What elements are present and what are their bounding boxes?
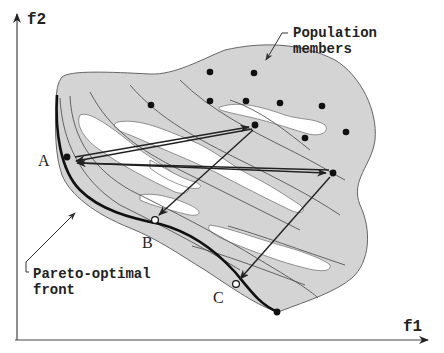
population-label-line2: members <box>293 41 352 57</box>
member-dot-source <box>330 170 337 177</box>
member-dot <box>148 102 155 109</box>
pareto-diagram: Population members Pareto-optimal front … <box>0 0 444 353</box>
member-dot <box>343 129 350 136</box>
member-dot <box>302 135 309 142</box>
point-b-label: B <box>142 234 153 251</box>
front-end-dot <box>274 309 281 316</box>
point-a-dot <box>64 154 71 161</box>
population-label-line1: Population <box>293 25 377 41</box>
point-c-label: C <box>213 289 224 306</box>
pareto-label-line1: Pareto-optimal <box>33 266 151 282</box>
member-dot <box>319 103 326 110</box>
member-dot <box>277 100 284 107</box>
pareto-label-line2: front <box>33 282 75 298</box>
member-dot-source <box>252 122 259 129</box>
point-b-marker <box>152 217 159 224</box>
member-dot <box>251 70 258 77</box>
member-dot <box>243 98 250 105</box>
pareto-callout-arrow <box>26 213 75 272</box>
point-c-marker <box>233 281 240 288</box>
point-a-label: A <box>38 152 50 169</box>
member-dot <box>207 98 214 105</box>
member-dot <box>207 69 214 76</box>
x-axis-label: f1 <box>403 318 422 336</box>
y-axis-label: f2 <box>27 11 46 29</box>
